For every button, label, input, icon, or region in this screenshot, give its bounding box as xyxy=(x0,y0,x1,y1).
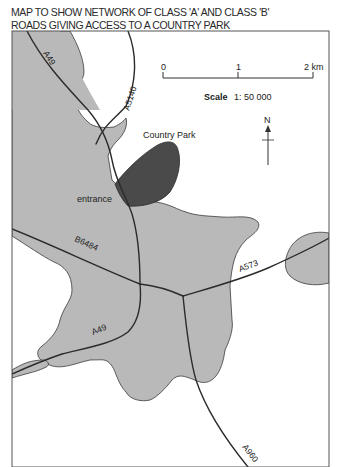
north-label: N xyxy=(264,115,271,125)
scale-bar: 0 1 2 km Scale 1: 50 000 xyxy=(161,62,324,102)
urban-area-east xyxy=(285,232,329,285)
entrance-label: entrance xyxy=(77,194,112,204)
scale-tick-0: 0 xyxy=(161,62,166,72)
north-arrow-icon: N xyxy=(262,115,274,165)
country-park-label: Country Park xyxy=(143,130,196,140)
scale-tick-1: 1 xyxy=(236,62,241,72)
scale-ratio: 1: 50 000 xyxy=(234,92,272,102)
scale-tick-2: 2 km xyxy=(304,62,324,72)
road-label-a573: A573 xyxy=(237,258,259,274)
road-label-a5140: A5140 xyxy=(121,85,138,112)
scale-label: Scale xyxy=(204,92,228,102)
map-canvas: 0 1 2 km Scale 1: 50 000 N Country Park … xyxy=(0,0,344,467)
